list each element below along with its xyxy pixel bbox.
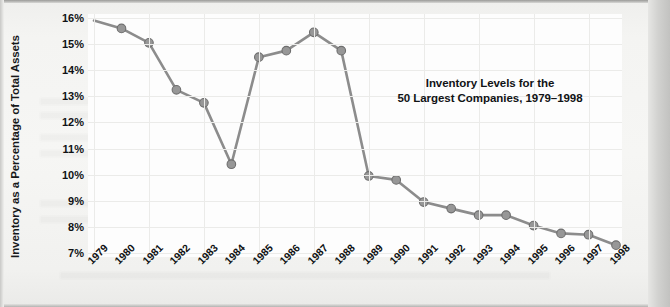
y-axis-title: Inventory as a Percentage of Total Asset…	[4, 19, 26, 274]
y-axis-tick-label: 11%	[50, 143, 84, 155]
gridline-horizontal	[88, 44, 622, 45]
y-axis-tick-label: 12%	[50, 116, 84, 128]
gridline-horizontal	[88, 70, 622, 71]
y-axis-tick-label: 8%	[50, 221, 84, 233]
gridline-vertical	[204, 14, 205, 257]
plot-area	[88, 14, 622, 257]
data-point-marker[interactable]	[227, 160, 236, 169]
y-axis-tick-label: 13%	[50, 90, 84, 102]
figure-border-top	[0, 0, 670, 3]
gridline-vertical	[369, 14, 370, 257]
y-axis-tick-labels: 7%8%9%10%11%12%13%14%15%16%	[48, 0, 84, 307]
figure-border-right	[648, 0, 670, 307]
gridline-horizontal	[88, 227, 622, 228]
gridline-vertical	[314, 14, 315, 257]
y-axis-tick-label: 10%	[50, 169, 84, 181]
y-axis-tick-label: 14%	[50, 64, 84, 76]
gridline-horizontal	[88, 175, 622, 176]
gridline-vertical	[149, 14, 150, 257]
data-point-marker[interactable]	[557, 229, 566, 238]
data-point-marker[interactable]	[117, 24, 126, 33]
gridline-vertical	[259, 14, 260, 257]
gridline-horizontal	[88, 149, 622, 150]
chart-title: Inventory Levels for the 50 Largest Comp…	[366, 76, 614, 106]
gridline-vertical	[424, 14, 425, 257]
chart-title-line-2: 50 Largest Companies, 1979–1998	[366, 91, 614, 106]
series-line	[94, 21, 616, 246]
data-point-marker[interactable]	[447, 204, 456, 213]
gridline-horizontal	[88, 18, 622, 19]
chart-title-line-1: Inventory Levels for the	[366, 76, 614, 91]
gridline-horizontal	[88, 201, 622, 202]
y-axis-tick-label: 16%	[50, 12, 84, 24]
gridline-vertical	[479, 14, 480, 257]
y-axis-tick-label: 15%	[50, 38, 84, 50]
x-axis-tick-labels: 1979198019811982198319841985198619871988…	[88, 258, 622, 306]
inventory-line-series	[88, 14, 622, 257]
gridline-horizontal	[88, 122, 622, 123]
data-point-marker[interactable]	[392, 176, 401, 185]
data-point-marker[interactable]	[502, 211, 511, 220]
y-axis-tick-label: 9%	[50, 195, 84, 207]
data-point-marker[interactable]	[282, 46, 291, 55]
gridline-vertical	[534, 14, 535, 257]
chart-figure: Inventory as a Percentage of Total Asset…	[0, 0, 670, 307]
data-point-marker[interactable]	[337, 46, 346, 55]
y-axis-tick-label: 7%	[50, 247, 84, 259]
gridline-vertical	[94, 14, 95, 257]
data-point-marker[interactable]	[172, 86, 181, 95]
gridline-vertical	[589, 14, 590, 257]
